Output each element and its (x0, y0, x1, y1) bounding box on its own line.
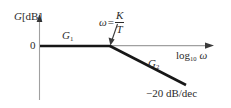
y-axis (37, 14, 43, 100)
corner-frequency-numerator: K (115, 10, 124, 21)
corner-frequency-annotation: ω = K T (99, 10, 124, 35)
slope-annotation-label: −20 dB/dec (146, 88, 197, 99)
curve-label-g2: G2 (148, 58, 159, 71)
x-axis-label-omega: ω (199, 49, 207, 61)
corner-frequency-denominator: T (116, 24, 124, 35)
corner-frequency-equals: = (108, 17, 114, 28)
corner-frequency-fraction: K T (115, 10, 124, 35)
curve-label-g1: G1 (62, 30, 73, 43)
curve-label-g1-subscript: 1 (70, 35, 73, 42)
x-axis-label-log: log (176, 49, 190, 61)
x-axis-label: log10 ω (176, 50, 207, 63)
corner-frequency-omega: ω (99, 17, 107, 28)
curve-label-g2-symbol: G (148, 57, 156, 69)
curve-label-g2-subscript: 2 (156, 63, 159, 70)
y-axis-label-unit: [dB] (22, 10, 42, 22)
y-axis-label: G[dB] (14, 11, 42, 22)
bode-magnitude-plot-figure: G[dB] 0 log10 ω G1 G2 −20 dB/dec ω = K T (0, 0, 231, 108)
y-axis-zero-tick-label: 0 (30, 40, 36, 51)
y-axis-label-symbol: G (14, 10, 22, 22)
curve-label-g1-symbol: G (62, 29, 70, 41)
x-axis-label-base: 10 (190, 55, 197, 62)
